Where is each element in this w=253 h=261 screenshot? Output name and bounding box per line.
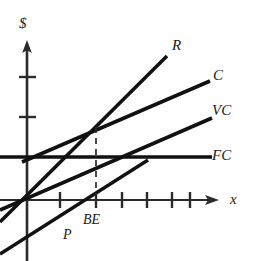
- curve-label-profit: P: [63, 228, 72, 242]
- chart-canvas: [0, 0, 253, 261]
- curve-label-fixed-cost: FC: [212, 148, 231, 163]
- curve-profit: [0, 160, 148, 254]
- curve-label-total-cost: C: [213, 68, 223, 83]
- break-even-label: BE: [83, 213, 100, 227]
- curve-label-variable-cost: VC: [212, 103, 231, 118]
- curve-revenue: [0, 56, 167, 222]
- x-axis-label: x: [230, 192, 237, 207]
- axis-group: [0, 40, 219, 261]
- curve-label-revenue: R: [172, 38, 181, 53]
- curve-total-cost: [22, 81, 210, 162]
- y-axis-label: $: [19, 16, 27, 31]
- curve-variable-cost: [0, 118, 212, 210]
- break-even-chart: $ x R C VC FC BE P: [0, 0, 253, 261]
